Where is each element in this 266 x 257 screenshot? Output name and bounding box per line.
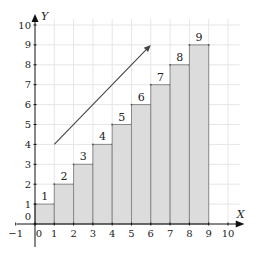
bar [189,45,208,224]
bar-value-label: 6 [138,91,145,104]
y-tick-label: 0 [25,211,31,222]
y-tick-label: 1 [25,199,31,210]
bar-value-label: 9 [196,31,203,44]
y-tick-label: 2 [25,179,31,190]
y-tick-label: 3 [25,159,31,170]
bar [93,144,112,224]
x-tick-label: 6 [148,228,154,239]
x-tick-label: 1 [51,228,57,239]
y-tick-label: 9 [25,39,31,50]
y-tick-label: 4 [25,139,31,150]
x-axis-label: X [236,208,246,221]
bar-value-label: 8 [176,51,183,64]
x-tick-label: 7 [167,228,173,239]
y-tick-label: 10 [18,20,31,31]
y-tick-label: 5 [25,119,31,130]
bar-value-label: 2 [60,170,67,183]
bar [54,184,73,224]
x-tick-label: 10 [222,228,235,239]
y-axis-label: Y [41,10,50,23]
y-axis-arrow-icon [32,14,39,22]
bar-value-label: 1 [41,190,48,203]
x-axis-arrow-icon [236,221,245,228]
bar [170,65,189,224]
x-tick-label: 2 [70,228,76,239]
bar-value-label: 4 [99,130,106,143]
y-tick-label: 6 [25,99,31,110]
x-tick-label: 9 [206,228,212,239]
step-bar-chart: 123456789 XY −1012345678910012345678910 [0,0,266,257]
x-tick-label: 0 [36,228,42,239]
bar [35,204,54,224]
x-tick-label: −1 [8,228,23,239]
x-tick-label: 3 [90,228,96,239]
bar [132,105,151,224]
bar-value-label: 7 [157,71,164,84]
bars: 123456789 [34,31,210,224]
x-tick-label: 8 [186,228,192,239]
bar [112,125,131,225]
x-tick-label: 4 [109,228,115,239]
bar [74,164,93,224]
bar-value-label: 5 [118,111,125,124]
x-tick-label: 5 [128,228,134,239]
bar [151,85,170,224]
y-tick-label: 8 [25,59,31,70]
y-tick-label: 7 [25,79,31,90]
bar-value-label: 3 [80,150,87,163]
